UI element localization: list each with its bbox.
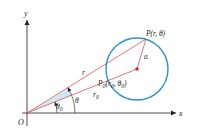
point-p-label: P(r, θ) — [145, 29, 166, 38]
center-point-p0 — [135, 67, 139, 71]
ray-r — [27, 39, 146, 113]
polar-circle-diagram: y x O P(r, θ) P0(r0, θ0) r r0 a θ θ0 — [0, 0, 197, 131]
segment-r-label: r — [82, 68, 85, 77]
y-axis-label: y — [23, 9, 28, 18]
origin-label: O — [18, 118, 24, 127]
theta0-label: θ0 — [56, 102, 63, 112]
segment-a-label: a — [144, 52, 148, 61]
theta-label: θ — [75, 96, 79, 105]
x-axis-label: x — [178, 109, 183, 118]
segment-r0-label: r0 — [93, 90, 99, 100]
point-p0-label: P0(r0, θ0) — [97, 79, 127, 89]
